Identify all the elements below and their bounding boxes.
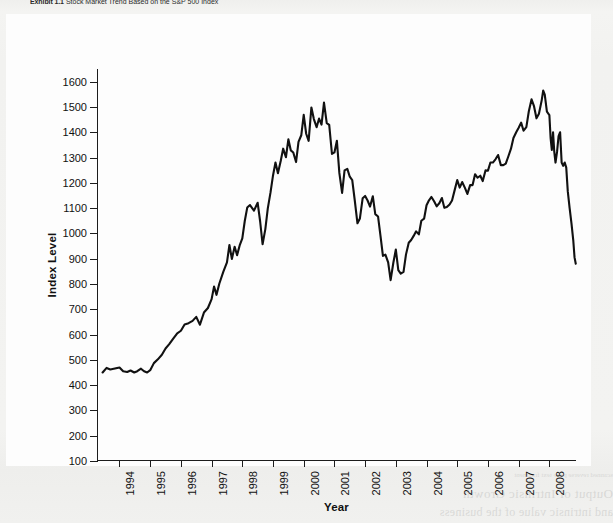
y-axis-tick-label: 1300 bbox=[63, 152, 87, 164]
x-axis-tick-label: 1995 bbox=[155, 471, 167, 495]
x-axis-tick-label: 2003 bbox=[401, 471, 413, 495]
exhibit-caption: Exhibit 1.1 Stock Market Trend Based on … bbox=[30, 0, 360, 6]
x-axis-title: Year bbox=[97, 501, 576, 513]
y-axis-tick bbox=[90, 436, 98, 437]
x-axis-tick-label: 2005 bbox=[462, 471, 474, 495]
y-axis-tick bbox=[90, 461, 98, 462]
y-axis-tick-label: 1100 bbox=[63, 202, 87, 214]
x-axis-tick-label: 1998 bbox=[247, 471, 259, 495]
y-axis-tick bbox=[90, 82, 98, 83]
x-axis-tick-label: 2002 bbox=[370, 471, 382, 495]
x-axis-tick-label: 2004 bbox=[432, 471, 444, 495]
y-axis-tick-label: 1600 bbox=[63, 76, 87, 88]
x-axis-tick-label: 2001 bbox=[339, 471, 351, 495]
y-axis-tick-label: 800 bbox=[69, 278, 87, 290]
y-axis-tick bbox=[90, 132, 98, 133]
y-axis-tick bbox=[90, 233, 98, 234]
y-axis-tick bbox=[90, 284, 98, 285]
x-axis-tick-label: 1996 bbox=[186, 471, 198, 495]
y-axis-tick-label: 1000 bbox=[63, 227, 87, 239]
x-axis-tick bbox=[457, 460, 458, 467]
x-axis-tick-label: 2008 bbox=[554, 471, 566, 495]
y-axis-tick bbox=[90, 385, 98, 386]
exhibit-caption-text: Stock Market Trend Based on the S&P 500 … bbox=[66, 0, 218, 5]
x-axis-tick bbox=[273, 460, 274, 467]
y-axis-tick-label: 1200 bbox=[63, 177, 87, 189]
x-axis-tick bbox=[427, 460, 428, 467]
y-axis-tick bbox=[90, 410, 98, 411]
y-axis-tick-label: 1400 bbox=[63, 126, 87, 138]
y-axis-tick-label: 600 bbox=[69, 329, 87, 341]
y-axis-title: Index Level bbox=[44, 69, 60, 461]
x-axis-tick bbox=[119, 460, 120, 467]
y-axis-tick-label: 200 bbox=[69, 430, 87, 442]
y-axis-tick-label: 1500 bbox=[63, 101, 87, 113]
x-axis-tick bbox=[519, 460, 520, 467]
y-axis-tick-label: 900 bbox=[69, 253, 87, 265]
x-axis-tick-label: 1999 bbox=[278, 471, 290, 495]
x-axis-tick bbox=[365, 460, 366, 467]
x-axis-tick-label: 2000 bbox=[309, 471, 321, 495]
x-axis-tick bbox=[181, 460, 182, 467]
chart-figure: Index Level 1002003004005006007008009001… bbox=[6, 14, 591, 466]
x-axis-tick-label: 2006 bbox=[493, 471, 505, 495]
page-bleed-through: scanned reverse page text fragment Outpu… bbox=[0, 466, 613, 523]
y-axis-tick bbox=[90, 360, 98, 361]
y-axis-tick bbox=[90, 335, 98, 336]
y-axis-tick bbox=[90, 158, 98, 159]
y-axis-tick-label: 500 bbox=[69, 354, 87, 366]
x-axis-tick bbox=[212, 460, 213, 467]
y-axis-title-text: Index Level bbox=[46, 233, 58, 298]
x-axis-tick bbox=[150, 460, 151, 467]
x-axis-tick bbox=[488, 460, 489, 467]
y-axis-tick bbox=[90, 309, 98, 310]
x-axis-tick bbox=[549, 460, 550, 467]
line-series-svg bbox=[98, 69, 577, 461]
x-axis-tick bbox=[304, 460, 305, 467]
y-axis-tick-label: 400 bbox=[69, 379, 87, 391]
y-axis-tick bbox=[90, 183, 98, 184]
y-axis-tick bbox=[90, 208, 98, 209]
x-axis-tick-label: 2007 bbox=[524, 471, 536, 495]
exhibit-label: Exhibit 1.1 bbox=[30, 0, 64, 5]
x-axis-tick bbox=[242, 460, 243, 467]
x-axis-tick-label: 1994 bbox=[124, 471, 136, 495]
x-axis-tick bbox=[396, 460, 397, 467]
y-axis-tick-label: 700 bbox=[69, 303, 87, 315]
sp500-line bbox=[103, 91, 576, 373]
y-axis-tick bbox=[90, 259, 98, 260]
scanned-page: Exhibit 1.1 Stock Market Trend Based on … bbox=[0, 0, 613, 523]
y-axis-tick-label: 100 bbox=[69, 455, 87, 467]
plot-area: 1002003004005006007008009001000110012001… bbox=[97, 69, 576, 461]
y-axis-tick-label: 300 bbox=[69, 404, 87, 416]
x-axis-tick-label: 1997 bbox=[217, 471, 229, 495]
y-axis-tick bbox=[90, 107, 98, 108]
x-axis-tick bbox=[334, 460, 335, 467]
